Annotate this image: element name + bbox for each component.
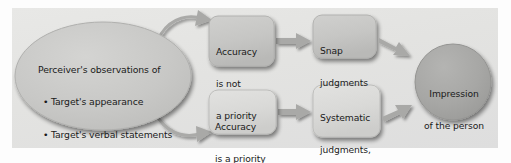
box4-line-1: Systematic — [320, 113, 372, 124]
box3-line-1: Accuracy — [215, 122, 266, 133]
source-ellipse-label: Perceiver's observations of •Target's ap… — [38, 43, 184, 163]
box2-line-2: judgments — [320, 78, 368, 89]
connector-accuracy-is-priority-to-systematic-judgments — [278, 104, 311, 120]
node-systematic-judgments-label: Systematic judgments, including attribut… — [320, 92, 372, 163]
source-bullet-1: •Target's appearance — [38, 97, 184, 108]
connector-ellipse-to-accuracy-not-priority — [161, 10, 212, 34]
source-bullet-3-text: Target's actions — [51, 161, 122, 163]
box3-line-2: is a priority — [215, 154, 266, 163]
bullet-glyph-icon: • — [43, 96, 48, 107]
bullet-glyph-icon: • — [43, 129, 48, 140]
circle-line-2: of the person — [421, 121, 487, 132]
source-bullet-2-text: Target's verbal statements — [51, 129, 172, 140]
source-bullet-1-text: Target's appearance — [51, 96, 143, 107]
box4-line-2: judgments, — [320, 145, 372, 156]
connector-systematic-judgments-to-impression — [382, 105, 412, 122]
connector-accuracy-not-priority-to-snap-judgments — [276, 33, 311, 49]
node-impression-label: Impression of the person — [421, 68, 487, 153]
box2-line-1: Snap — [320, 46, 368, 57]
node-accuracy-is-priority-label: Accuracy is a priority — [215, 101, 266, 163]
box1-line-1: Accuracy — [216, 47, 257, 58]
source-bullet-2: •Target's verbal statements — [38, 130, 184, 141]
source-heading: Perceiver's observations of — [38, 65, 184, 76]
connector-snap-judgments-to-impression — [379, 38, 410, 56]
circle-line-1: Impression — [421, 89, 487, 100]
bullet-glyph-icon: • — [43, 161, 48, 163]
diagram-figure: Perceiver's observations of •Target's ap… — [0, 0, 511, 163]
source-bullet-3: •Target's actions — [38, 162, 184, 163]
box1-line-2: is not — [216, 79, 257, 90]
